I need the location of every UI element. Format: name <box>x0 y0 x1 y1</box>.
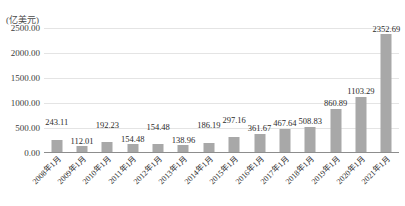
bar[interactable] <box>153 144 164 152</box>
bar-slot: 361.67 <box>248 28 272 153</box>
bar-slot: 186.19 <box>197 28 221 153</box>
bar-value-label: 112.01 <box>71 137 94 146</box>
bar-slot: 112.01 <box>70 28 94 153</box>
y-axis-tick-label: 1000.00 <box>11 98 40 108</box>
bar-value-label: 361.67 <box>248 124 271 133</box>
bar-value-label: 860.89 <box>324 99 347 108</box>
y-axis-tick-label: 2500.00 <box>11 23 40 33</box>
bar[interactable] <box>203 143 214 152</box>
x-axis-label-slot: 2021年1月 <box>374 154 398 206</box>
bar-slot: 243.11 <box>45 28 69 153</box>
bar-slot: 154.48 <box>146 28 170 153</box>
bar[interactable] <box>305 127 316 152</box>
bar[interactable] <box>254 134 265 152</box>
bar-slot: 297.16 <box>222 28 246 153</box>
bar[interactable] <box>279 129 290 152</box>
bar-value-label: 1103.29 <box>347 87 374 96</box>
bar-slot: 154.48 <box>121 28 145 153</box>
bar[interactable] <box>51 140 62 152</box>
y-axis-tick-label: 0.00 <box>24 148 40 158</box>
bar-slot: 2352.69 <box>374 28 398 153</box>
x-axis-labels: 2008年1月2009年1月2010年1月2011年1月2012年1月2013年… <box>44 154 399 206</box>
bar-value-label: 154.48 <box>146 123 169 132</box>
bar-chart: (亿美元) 0.00500.001000.001500.002000.00250… <box>0 0 405 206</box>
y-axis-tick-label: 500.00 <box>15 123 40 133</box>
bar-value-label: 508.83 <box>299 117 322 126</box>
bar-slot: 1103.29 <box>349 28 373 153</box>
bars-layer: 243.11112.01192.23154.48154.48138.96186.… <box>44 28 399 153</box>
bar-slot: 138.96 <box>171 28 195 153</box>
bar-value-label: 154.48 <box>121 135 144 144</box>
bar-slot: 192.23 <box>95 28 119 153</box>
bar-value-label: 192.23 <box>96 121 119 130</box>
bar-value-label: 297.16 <box>222 116 245 125</box>
bar-value-label: 2352.69 <box>373 25 401 34</box>
bar[interactable] <box>330 109 341 152</box>
bar-value-label: 138.96 <box>172 136 195 145</box>
bar[interactable] <box>178 145 189 152</box>
bar[interactable] <box>355 97 366 152</box>
bar[interactable] <box>229 137 240 152</box>
bar-slot: 467.64 <box>273 28 297 153</box>
bar[interactable] <box>381 34 392 152</box>
bar[interactable] <box>127 144 138 152</box>
bar-value-label: 467.64 <box>273 119 296 128</box>
bar[interactable] <box>102 142 113 152</box>
bar-value-label: 186.19 <box>197 121 220 130</box>
y-axis-tick-label: 1500.00 <box>11 73 40 83</box>
bar-value-label: 243.11 <box>45 118 68 127</box>
bar-slot: 860.89 <box>324 28 348 153</box>
bar-slot: 508.83 <box>298 28 322 153</box>
plot-area: 0.00500.001000.001500.002000.002500.00 2… <box>44 28 399 153</box>
y-axis-tick-label: 2000.00 <box>11 48 40 58</box>
bar[interactable] <box>77 146 88 152</box>
